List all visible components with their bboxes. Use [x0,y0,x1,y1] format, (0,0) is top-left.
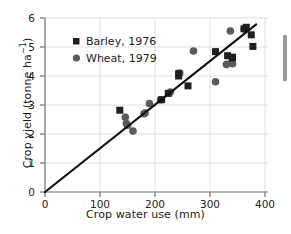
data-point-wheat [129,127,137,135]
data-point-wheat [212,78,220,86]
data-point-barley [229,54,236,61]
legend-marker-square-icon [73,38,80,45]
data-point-barley [116,107,123,114]
y-axis-title: Crop yield (tonne ha−1) [16,13,32,193]
x-axis-title: Crop water use (mm) [0,208,291,221]
scrollbar-thumb[interactable] [283,35,287,81]
y-axis-title-exponent: −1 [19,42,28,54]
data-point-barley [175,73,182,80]
data-point-barley [249,43,256,50]
data-point-wheat [227,27,235,35]
data-point-wheat [122,113,130,121]
data-point-wheat [190,47,198,55]
y-axis-title-suffix: ) [21,38,34,42]
data-point-barley [248,31,255,38]
data-point-barley [185,82,192,89]
legend-marker-circle-icon [73,54,80,61]
chart-figure: 6 5 4 3 2 1 0 0 100 200 300 400 Barley, … [0,0,291,234]
y-axis-title-text: Crop yield (tonne ha−1) [19,38,34,169]
y-axis-title-prefix: Crop yield (tonne ha [21,54,34,168]
legend-label-barley: Barley, 1976 [86,35,156,48]
legend-label-wheat: Wheat, 1979 [86,52,157,65]
scatter-plot-canvas: 6 5 4 3 2 1 0 0 100 200 300 400 Barley, … [0,0,291,234]
